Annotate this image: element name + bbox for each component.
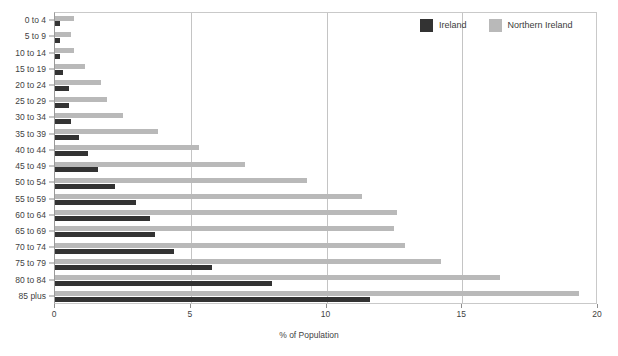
legend-label: Northern Ireland: [508, 21, 573, 30]
bar-row: [55, 110, 596, 126]
legend-entry[interactable]: Ireland: [420, 19, 467, 32]
y-tick-label: 25 to 29: [15, 97, 46, 106]
bar-northern-ireland[interactable]: [55, 226, 394, 231]
bar-ireland[interactable]: [55, 249, 174, 254]
y-axis: 0 to 45 to 910 to 1415 to 1920 to 2425 t…: [0, 12, 54, 304]
bar-ireland[interactable]: [55, 119, 71, 124]
bar-ireland[interactable]: [55, 70, 63, 75]
bar-ireland[interactable]: [55, 54, 60, 59]
bar-ireland[interactable]: [55, 167, 98, 172]
bar-northern-ireland[interactable]: [55, 243, 405, 248]
y-tick-label: 5 to 9: [25, 32, 46, 41]
y-tick-mark: [49, 247, 54, 248]
bar-northern-ireland[interactable]: [55, 16, 74, 21]
y-tick-mark: [49, 68, 54, 69]
bar-row: [55, 143, 596, 159]
y-tick-label: 85 plus: [19, 292, 46, 301]
bar-rows: [55, 13, 596, 303]
bar-northern-ireland[interactable]: [55, 80, 101, 85]
bar-northern-ireland[interactable]: [55, 113, 123, 118]
bar-chart: IrelandNorthern Ireland 0 to 45 to 910 t…: [0, 0, 618, 356]
x-tick-label: 20: [592, 310, 601, 319]
y-tick-label: 10 to 14: [15, 48, 46, 57]
bar-ireland[interactable]: [55, 297, 370, 302]
bar-ireland[interactable]: [55, 151, 88, 156]
y-tick-label: 75 to 79: [15, 259, 46, 268]
y-tick-label: 30 to 34: [15, 113, 46, 122]
y-tick-label: 70 to 74: [15, 243, 46, 252]
legend-entry[interactable]: Northern Ireland: [489, 19, 573, 32]
y-tick-label: 55 to 59: [15, 194, 46, 203]
bar-northern-ireland[interactable]: [55, 194, 362, 199]
y-tick-label: 60 to 64: [15, 211, 46, 220]
y-tick-mark: [49, 117, 54, 118]
legend-label: Ireland: [439, 21, 467, 30]
y-tick-mark: [49, 295, 54, 296]
bar-row: [55, 256, 596, 272]
bar-row: [55, 224, 596, 240]
x-tick-mark: [461, 304, 462, 308]
y-tick-mark: [49, 20, 54, 21]
bar-ireland[interactable]: [55, 86, 69, 91]
x-tick-mark: [597, 304, 598, 308]
x-axis: 05101520: [54, 304, 597, 324]
y-tick-mark: [49, 101, 54, 102]
bar-ireland[interactable]: [55, 21, 60, 26]
bar-ireland[interactable]: [55, 38, 60, 43]
y-tick-mark: [49, 85, 54, 86]
y-tick-mark: [49, 214, 54, 215]
bar-ireland[interactable]: [55, 184, 115, 189]
square-swatch-icon: [489, 19, 502, 32]
y-tick-label: 80 to 84: [15, 275, 46, 284]
bar-ireland[interactable]: [55, 103, 69, 108]
bar-northern-ireland[interactable]: [55, 210, 397, 215]
y-tick-mark: [49, 279, 54, 280]
plot-area: [54, 12, 597, 304]
bar-northern-ireland[interactable]: [55, 259, 441, 264]
y-tick-mark: [49, 149, 54, 150]
bar-northern-ireland[interactable]: [55, 48, 74, 53]
bar-northern-ireland[interactable]: [55, 129, 158, 134]
bar-row: [55, 240, 596, 256]
bar-northern-ireland[interactable]: [55, 145, 199, 150]
bar-row: [55, 175, 596, 191]
square-swatch-icon: [420, 19, 433, 32]
x-tick-label: 5: [187, 310, 192, 319]
bar-ireland[interactable]: [55, 200, 136, 205]
bar-row: [55, 191, 596, 207]
bar-northern-ireland[interactable]: [55, 275, 500, 280]
x-tick-mark: [54, 304, 55, 308]
bar-ireland[interactable]: [55, 232, 155, 237]
bar-row: [55, 159, 596, 175]
bar-row: [55, 127, 596, 143]
y-tick-label: 50 to 54: [15, 178, 46, 187]
bar-row: [55, 208, 596, 224]
x-tick-label: 15: [457, 310, 466, 319]
y-tick-label: 15 to 19: [15, 65, 46, 74]
y-tick-label: 20 to 24: [15, 81, 46, 90]
bar-northern-ireland[interactable]: [55, 162, 245, 167]
x-tick-mark: [326, 304, 327, 308]
y-tick-mark: [49, 263, 54, 264]
x-tick-label: 0: [52, 310, 57, 319]
y-tick-mark: [49, 166, 54, 167]
bar-ireland[interactable]: [55, 281, 272, 286]
bar-northern-ireland[interactable]: [55, 32, 71, 37]
bar-ireland[interactable]: [55, 216, 150, 221]
bar-ireland[interactable]: [55, 265, 212, 270]
y-tick-mark: [49, 231, 54, 232]
y-tick-mark: [49, 198, 54, 199]
x-tick-label: 10: [321, 310, 330, 319]
bar-northern-ireland[interactable]: [55, 64, 85, 69]
x-tick-mark: [190, 304, 191, 308]
bar-northern-ireland[interactable]: [55, 97, 107, 102]
y-tick-label: 35 to 39: [15, 129, 46, 138]
bar-row: [55, 273, 596, 289]
x-axis-title: % of Population: [0, 330, 618, 340]
y-tick-label: 0 to 4: [25, 16, 46, 25]
y-tick-mark: [49, 182, 54, 183]
bar-ireland[interactable]: [55, 135, 79, 140]
bar-northern-ireland[interactable]: [55, 291, 579, 296]
bar-northern-ireland[interactable]: [55, 178, 307, 183]
bar-row: [55, 289, 596, 305]
